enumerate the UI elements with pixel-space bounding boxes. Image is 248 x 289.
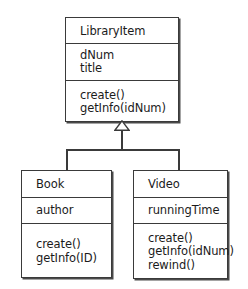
attribute-item: dNum	[80, 49, 178, 63]
operation-item: getInfo(ID)	[36, 252, 111, 266]
class-name-compartment-book: Book	[22, 171, 111, 197]
uml-class-video[interactable]: Video runningTime create() getInfo(idNum…	[133, 170, 228, 279]
class-name-compartment-video: Video	[134, 171, 227, 197]
operations-compartment-book: create() getInfo(ID)	[22, 223, 111, 279]
operation-item: getInfo(idNum)	[80, 102, 178, 116]
attribute-item: author	[36, 204, 111, 218]
class-name-label: Video	[148, 177, 227, 191]
operation-item: create()	[36, 238, 111, 252]
operation-item: create()	[80, 89, 178, 103]
uml-class-diagram-canvas: LibraryItem dNum title create() getInfo(…	[0, 0, 248, 289]
class-name-compartment-libraryitem: LibraryItem	[66, 18, 178, 43]
generalization-arrowhead-icon	[114, 120, 130, 131]
generalization-branch-to-book	[66, 149, 68, 171]
uml-class-book[interactable]: Book author create() getInfo(ID)	[21, 170, 112, 278]
class-name-label: Book	[36, 177, 111, 191]
attributes-compartment-video: runningTime	[134, 197, 227, 223]
operation-item: getInfo(idNum)	[148, 245, 227, 259]
generalization-horizontal-bar	[66, 149, 180, 151]
uml-class-libraryitem[interactable]: LibraryItem dNum title create() getInfo(…	[65, 17, 179, 122]
operation-item: create()	[148, 232, 227, 246]
operations-compartment-libraryitem: create() getInfo(idNum)	[66, 80, 178, 123]
attribute-item: title	[80, 62, 178, 76]
attributes-compartment-libraryitem: dNum title	[66, 43, 178, 80]
attribute-item: runningTime	[148, 204, 227, 218]
generalization-branch-to-video	[178, 149, 180, 171]
class-name-label: LibraryItem	[80, 24, 178, 38]
attributes-compartment-book: author	[22, 197, 111, 223]
operations-compartment-video: create() getInfo(idNum) rewind()	[134, 223, 227, 280]
operation-item: rewind()	[148, 259, 227, 273]
generalization-stem-line	[121, 129, 123, 151]
